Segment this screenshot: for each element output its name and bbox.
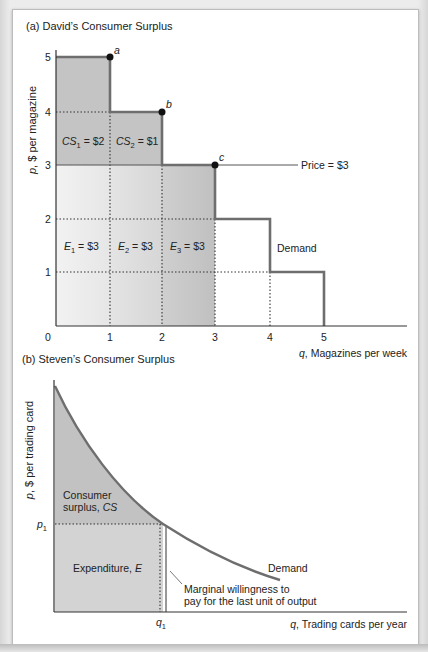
annotation-leader: [170, 571, 182, 584]
svg-text:3: 3: [45, 159, 51, 171]
svg-text:2: 2: [159, 331, 165, 343]
svg-text:3: 3: [212, 331, 218, 343]
x-ticks-a: 0 1 2 3 4 5: [45, 331, 327, 343]
point-a: [107, 54, 114, 61]
point-c-label: c: [219, 151, 225, 163]
y-ticks-a: 5 4 3 2 1: [45, 51, 51, 278]
point-b-label: b: [166, 98, 172, 110]
svg-text:4: 4: [45, 106, 51, 118]
annotation-line2: pay for the last unit of output: [184, 595, 317, 607]
svg-text:1: 1: [107, 331, 113, 343]
x-label-b: q, Trading cards per year: [290, 618, 407, 630]
panel-b: (b) Steven’s Consumer Surplus p, $ per t…: [22, 353, 407, 631]
panel-b-y-label: p, $ per trading card: [23, 401, 35, 500]
q1-tick: q1: [156, 616, 166, 631]
point-a-label: a: [114, 44, 120, 56]
svg-text:1: 1: [45, 266, 51, 278]
x-label-a: q, Magazines per week: [299, 347, 408, 359]
svg-text:0: 0: [45, 331, 51, 343]
panel-a-title: (a) David’s Consumer Surplus: [26, 20, 173, 32]
svg-text:5: 5: [45, 51, 51, 63]
figure-canvas: (a) David’s Consumer Surplus p, $ per ma…: [0, 0, 428, 652]
cs-label-line1: Consumer: [63, 489, 112, 501]
area-cs1: [56, 57, 110, 165]
panel-a-y-label: p, $ per magazine: [26, 86, 38, 175]
expenditure-label: Expenditure, E: [73, 562, 143, 574]
panel-b-title: (b) Steven’s Consumer Surplus: [22, 353, 175, 365]
svg-text:4: 4: [267, 331, 273, 343]
p1-tick: p1: [36, 518, 47, 533]
point-b: [159, 109, 166, 116]
demand-label-a: Demand: [277, 242, 317, 254]
point-c: [212, 162, 219, 169]
svg-text:2: 2: [45, 213, 51, 225]
cs-label-line2: surplus, CS: [63, 501, 117, 513]
annotation-line1: Marginal willingness to: [184, 583, 290, 595]
panel-a: (a) David’s Consumer Surplus p, $ per ma…: [26, 20, 408, 359]
price-label: Price = $3: [301, 159, 349, 171]
svg-text:5: 5: [321, 331, 327, 343]
demand-label-b: Demand: [268, 562, 308, 574]
